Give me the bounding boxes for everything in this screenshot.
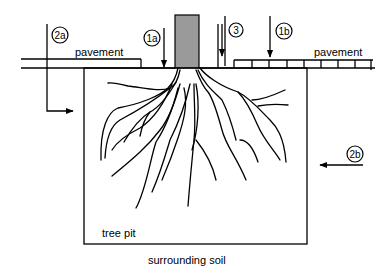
flow-arrow-3 bbox=[218, 16, 225, 68]
marker-2a: 2a bbox=[52, 27, 68, 43]
svg-text:1a: 1a bbox=[146, 33, 158, 44]
tree-trunk bbox=[175, 15, 199, 68]
svg-text:3: 3 bbox=[233, 25, 239, 36]
marker-1b: 1b bbox=[276, 23, 292, 39]
pavement-right-label: pavement bbox=[314, 46, 362, 58]
left-pavement bbox=[21, 59, 175, 68]
roots bbox=[101, 68, 288, 208]
marker-1a: 1a bbox=[144, 30, 160, 46]
svg-text:2a: 2a bbox=[54, 30, 66, 41]
marker-3: 3 bbox=[229, 23, 243, 37]
svg-text:1b: 1b bbox=[278, 26, 290, 37]
marker-2b: 2b bbox=[347, 146, 363, 162]
tree-pit-diagram: pavement pavement tree pit surrounding s… bbox=[0, 0, 391, 276]
svg-text:2b: 2b bbox=[349, 149, 361, 160]
pavement-left-label: pavement bbox=[75, 46, 123, 58]
tree-pit-label: tree pit bbox=[102, 227, 136, 239]
surrounding-soil-label: surrounding soil bbox=[148, 254, 226, 266]
